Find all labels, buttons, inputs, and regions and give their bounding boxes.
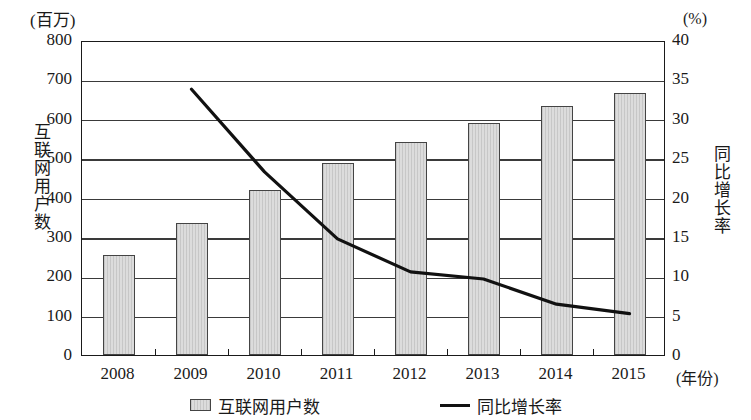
right-tick-label: 0 <box>672 345 712 365</box>
x-label-2013: 2013 <box>443 364 523 384</box>
x-label-2011: 2011 <box>297 364 377 384</box>
right-axis-unit-label: (%) <box>683 10 707 28</box>
left-tick-label: 300 <box>30 227 72 247</box>
left-tick-label: 400 <box>30 188 72 208</box>
right-tick-label: 15 <box>672 227 712 247</box>
right-tick-label: 5 <box>672 306 712 326</box>
x-label-2012: 2012 <box>370 364 450 384</box>
legend-line-label: 同比增长率 <box>477 393 562 418</box>
legend-line-swatch-icon <box>440 404 470 407</box>
plot-area <box>81 41 665 356</box>
legend-item-line: 同比增长率 <box>440 393 562 418</box>
left-tick-label: 700 <box>30 69 72 89</box>
chart-container: (百万) (%) 互联网用户数 同比增长率 010020030040050060… <box>0 0 751 420</box>
x-label-2010: 2010 <box>224 364 304 384</box>
left-tick-label: 800 <box>30 30 72 50</box>
right-tick-label: 10 <box>672 266 712 286</box>
left-tick-label: 500 <box>30 148 72 168</box>
left-tick-label: 100 <box>30 306 72 326</box>
chart-legend: 互联网用户数 同比增长率 <box>0 392 751 418</box>
right-tick-label: 35 <box>672 69 712 89</box>
left-tick-label: 200 <box>30 266 72 286</box>
x-label-2015: 2015 <box>589 364 669 384</box>
legend-item-bar: 互联网用户数 <box>190 393 320 418</box>
x-label-2009: 2009 <box>151 364 231 384</box>
left-axis-unit-label: (百万) <box>30 6 75 31</box>
x-axis-unit-label: (年份) <box>676 365 719 389</box>
right-tick-label: 25 <box>672 148 712 168</box>
left-tick-label: 600 <box>30 109 72 129</box>
right-tick-label: 20 <box>672 188 712 208</box>
x-label-2014: 2014 <box>516 364 596 384</box>
right-axis-title: 同比增长率 <box>712 146 732 236</box>
left-tick-label: 0 <box>30 345 72 365</box>
legend-bar-label: 互联网用户数 <box>218 393 320 418</box>
right-tick-label: 40 <box>672 30 712 50</box>
left-axis-title: 互联网用户数 <box>32 124 52 232</box>
legend-bar-swatch-icon <box>190 399 211 411</box>
x-label-2008: 2008 <box>78 364 158 384</box>
right-tick-label: 30 <box>672 109 712 129</box>
line-series <box>82 42 666 357</box>
